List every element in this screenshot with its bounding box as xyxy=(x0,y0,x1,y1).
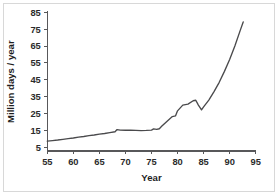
x-tick-label: 75 xyxy=(146,157,156,167)
x-tick-label: 85 xyxy=(198,157,208,167)
y-tick-label: 5 xyxy=(36,143,41,153)
line-chart-svg: 51525354555657585 556065707580859095 Mil… xyxy=(0,0,278,195)
x-tick-label: 60 xyxy=(68,157,78,167)
x-tick-label: 65 xyxy=(94,157,104,167)
y-tick-label: 75 xyxy=(30,25,40,35)
data-series-line xyxy=(47,22,243,141)
y-tick-label: 65 xyxy=(30,41,40,51)
y-axis-title: Million days / year xyxy=(6,40,17,123)
y-tick-label: 35 xyxy=(30,92,40,102)
y-tick-label: 55 xyxy=(30,58,40,68)
x-tick-label: 55 xyxy=(42,157,52,167)
x-axis-ticks: 556065707580859095 xyxy=(42,151,261,167)
x-tick-label: 70 xyxy=(120,157,130,167)
x-tick-label: 80 xyxy=(172,157,182,167)
y-tick-label: 25 xyxy=(30,109,40,119)
plot-area: 51525354555657585 556065707580859095 Mil… xyxy=(0,0,278,195)
y-axis-ticks: 51525354555657585 xyxy=(30,8,47,153)
x-axis-title: Year xyxy=(141,172,162,183)
chart-figure: 51525354555657585 556065707580859095 Mil… xyxy=(0,0,278,195)
y-tick-label: 45 xyxy=(30,75,40,85)
x-tick-label: 95 xyxy=(251,157,261,167)
x-tick-label: 90 xyxy=(224,157,234,167)
y-tick-label: 85 xyxy=(30,8,40,18)
y-tick-label: 15 xyxy=(30,126,40,136)
